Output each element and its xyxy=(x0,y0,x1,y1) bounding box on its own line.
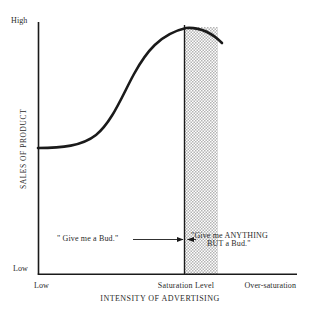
y-axis-low-label: Low xyxy=(13,265,28,273)
right-quote-line-2: BUT a Bud." xyxy=(191,240,268,248)
y-axis-high-label: High xyxy=(11,17,27,25)
x-axis-title: INTENSITY OF ADVERTISING xyxy=(100,295,219,303)
right-quote-annotation: "Give me ANYTHINGBUT a Bud." xyxy=(191,232,268,249)
chart-canvas xyxy=(0,0,317,316)
advertising-saturation-chart: High Low SALES OF PRODUCT Low Saturation… xyxy=(0,0,317,316)
y-axis-title: SALES OF PRODUCT xyxy=(20,89,28,209)
x-axis-oversaturation-label: Over-saturation xyxy=(244,282,296,290)
x-axis-saturation-label: Saturation Level xyxy=(158,282,214,290)
left-quote-annotation: " Give me a Bud." xyxy=(57,235,118,243)
x-axis-low-label: Low xyxy=(34,282,49,290)
